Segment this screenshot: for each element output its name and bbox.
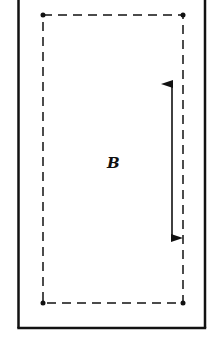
corner-dot-top-right [181,13,186,18]
corner-dot-bottom-left [41,301,46,306]
region-label: B [106,154,120,172]
diagram-canvas: B [0,0,218,346]
corner-dot-bottom-right [181,301,186,306]
corner-dot-top-left [41,13,46,18]
